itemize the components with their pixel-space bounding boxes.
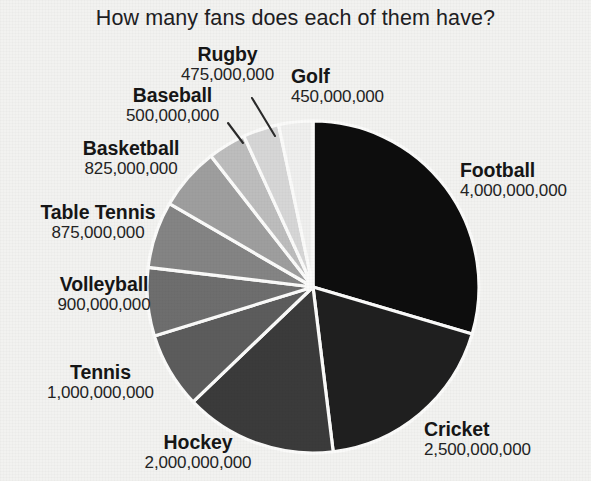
- slice-label-hockey-value: 2,000,000,000: [103, 454, 293, 472]
- slice-label-table-tennis: Table Tennis 875,000,000: [3, 202, 193, 242]
- slice-label-volleyball-value: 900,000,000: [19, 296, 189, 314]
- slice-label-golf-name: Golf: [291, 66, 471, 87]
- slice-label-baseball-value: 500,000,000: [85, 107, 260, 125]
- slice-label-table-tennis-value: 875,000,000: [3, 224, 193, 242]
- slice-label-hockey-name: Hockey: [103, 432, 293, 453]
- slice-label-volleyball: Volleyball 900,000,000: [19, 274, 189, 314]
- slice-label-basketball: Basketball 825,000,000: [41, 138, 221, 178]
- slice-label-rugby: Rugby 475,000,000: [140, 44, 315, 84]
- slice-label-tennis-value: 1,000,000,000: [8, 384, 193, 402]
- slice-label-baseball-name: Baseball: [85, 85, 260, 106]
- slice-label-rugby-value: 475,000,000: [140, 66, 315, 84]
- slice-label-football-value: 4,000,000,000: [460, 182, 591, 200]
- slice-label-golf-value: 450,000,000: [291, 88, 471, 106]
- slice-label-cricket-name: Cricket: [424, 419, 589, 440]
- slice-label-golf: Golf 450,000,000: [291, 66, 471, 106]
- slice-label-cricket-value: 2,500,000,000: [424, 441, 589, 459]
- slice-label-football-name: Football: [460, 160, 591, 181]
- slice-label-baseball: Baseball 500,000,000: [85, 85, 260, 125]
- slice-label-tennis-name: Tennis: [8, 362, 193, 383]
- slice-label-rugby-name: Rugby: [140, 44, 315, 65]
- slice-label-football: Football 4,000,000,000: [460, 160, 591, 200]
- slice-label-volleyball-name: Volleyball: [19, 274, 189, 295]
- slice-label-cricket: Cricket 2,500,000,000: [424, 419, 589, 459]
- slice-label-table-tennis-name: Table Tennis: [3, 202, 193, 223]
- slice-label-basketball-value: 825,000,000: [41, 160, 221, 178]
- pie-chart: How many fans does each of them have? Ru…: [0, 0, 591, 481]
- slice-label-hockey: Hockey 2,000,000,000: [103, 432, 293, 472]
- slice-label-basketball-name: Basketball: [41, 138, 221, 159]
- slice-label-tennis: Tennis 1,000,000,000: [8, 362, 193, 402]
